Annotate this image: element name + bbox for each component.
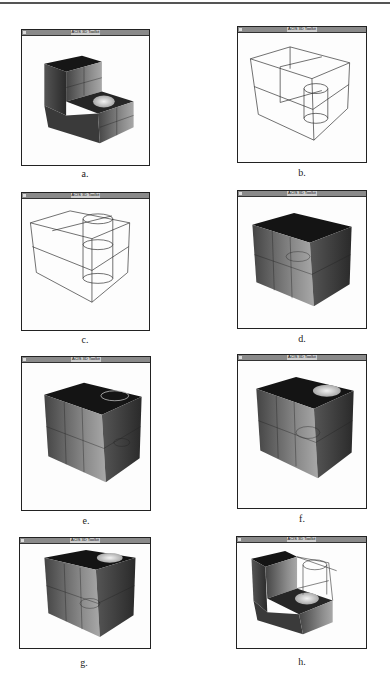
page-top-rule: [0, 2, 390, 4]
system-menu-icon: [21, 539, 24, 542]
window-title: ACIS 3D Toolkit: [287, 27, 317, 32]
viewport-wireframe-short-cylinder: [238, 33, 366, 162]
caption-e: e.: [66, 515, 106, 526]
system-menu-icon: [239, 192, 242, 195]
viewport-shaded-lblock: [22, 36, 149, 165]
window-title: ACIS 3D Toolkit: [287, 537, 317, 542]
caption-d: d.: [282, 333, 322, 344]
viewport-wireframe-tall-cylinder: [22, 199, 149, 330]
panel-d-window: ACIS 3D Toolkit: [237, 190, 367, 329]
caption-h: h.: [282, 656, 322, 667]
window-title: ACIS 3D Toolkit: [287, 355, 317, 360]
window-title: ACIS 3D Toolkit: [71, 30, 101, 35]
system-menu-icon: [23, 358, 26, 361]
caption-b: b.: [282, 167, 322, 178]
panel-g-window: ACIS 3D Toolkit: [19, 537, 151, 649]
panel-c-window: ACIS 3D Toolkit: [21, 192, 150, 331]
caption-f: f.: [282, 513, 322, 524]
window-title: ACIS 3D Toolkit: [70, 538, 100, 543]
window-title: ACIS 3D Toolkit: [287, 191, 317, 196]
viewport-shaded-block-circle: [22, 363, 150, 510]
viewport-shaded-solid-block: [238, 197, 366, 328]
caption-g: g.: [64, 657, 104, 668]
panel-a-window: ACIS 3D Toolkit: [21, 29, 150, 166]
panel-b-window: ACIS 3D Toolkit: [237, 26, 367, 163]
system-menu-icon: [238, 538, 241, 541]
panel-f-window: ACIS 3D Toolkit: [237, 354, 367, 509]
viewport-shaded-lblock-wire: [237, 543, 366, 648]
system-menu-icon: [239, 356, 242, 359]
panel-h-window: ACIS 3D Toolkit: [236, 536, 367, 649]
panel-e-window: ACIS 3D Toolkit: [21, 356, 151, 511]
system-menu-icon: [23, 31, 26, 34]
caption-a: a.: [65, 168, 105, 179]
viewport-shaded-block-hole-2: [20, 544, 150, 648]
window-title: ACIS 3D Toolkit: [71, 357, 101, 362]
caption-c: c.: [65, 334, 105, 345]
window-title: ACIS 3D Toolkit: [71, 193, 101, 198]
system-menu-icon: [239, 28, 242, 31]
viewport-shaded-block-hole: [238, 361, 366, 508]
system-menu-icon: [23, 194, 26, 197]
